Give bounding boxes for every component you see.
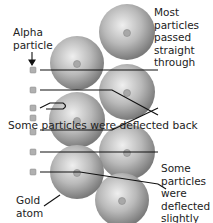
gold-atom xyxy=(95,173,149,223)
gold-atom-pointer xyxy=(44,195,60,206)
alpha-particle-icon xyxy=(30,149,36,155)
label-most-passed-through: Most particles passed straight through xyxy=(154,6,199,69)
gold-atom xyxy=(99,4,155,60)
label-deflected-slightly: Some particles were deflected slightly xyxy=(161,162,210,223)
alpha-particle-icon xyxy=(30,169,36,175)
gold-atom xyxy=(50,36,104,90)
arrow-down-icon xyxy=(29,60,35,65)
alpha-particle-icon xyxy=(30,67,36,73)
alpha-particle-icon xyxy=(30,87,36,93)
label-alpha-particle: Alpha particle xyxy=(13,26,53,51)
alpha-particle-icon xyxy=(30,105,36,111)
label-deflected-back: Some particles were deflected back xyxy=(8,119,198,132)
label-gold-atom: Gold atom xyxy=(16,194,43,219)
gold-atom xyxy=(99,64,155,120)
